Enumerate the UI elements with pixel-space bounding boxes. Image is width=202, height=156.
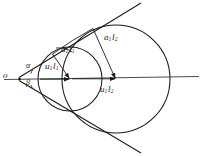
label-u1-l1: u1l1 bbox=[45, 62, 59, 72]
label-a1-l1-sub2: 1 bbox=[72, 48, 75, 54]
label-a1-l2: a1l2 bbox=[104, 33, 118, 43]
label-a1-l1-sub1: 1 bbox=[66, 48, 69, 54]
label-a1-l2-sub1: 1 bbox=[109, 36, 112, 42]
label-a1-l2-sub2: 2 bbox=[115, 36, 118, 42]
lower-tangent-line bbox=[19, 81, 141, 154]
label-u1-l1-sub1: 1 bbox=[50, 65, 53, 71]
label-u1-l1-base: u bbox=[45, 61, 50, 71]
label-u1-l2-sub2: 2 bbox=[111, 88, 114, 94]
vertex-point bbox=[18, 78, 21, 81]
label-a1-l2-base: a bbox=[104, 32, 109, 42]
label-u1-l2-sub1: 1 bbox=[105, 88, 108, 94]
figure-canvas bbox=[0, 0, 202, 156]
label-a1-l1-base: a bbox=[61, 44, 66, 54]
geometry-figure: o α β u1l1 a1l1 a1l2 u1l2 bbox=[0, 0, 202, 156]
vertex-label: o bbox=[3, 71, 8, 80]
label-u1-l2: u1l2 bbox=[100, 85, 114, 95]
angle-beta-label: β bbox=[26, 79, 30, 87]
label-a1-l1: a1l1 bbox=[61, 45, 75, 55]
label-u1-l2-base: u bbox=[100, 84, 105, 94]
upper-tangent-line bbox=[19, 3, 141, 78]
angle-alpha-label: α bbox=[26, 62, 30, 70]
label-u1-l1-sub2: 1 bbox=[56, 65, 59, 71]
